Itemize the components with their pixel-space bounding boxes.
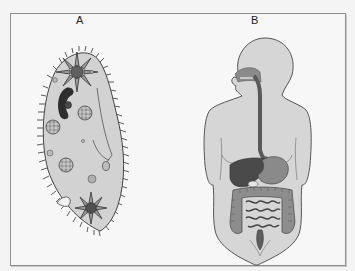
gallbladder [248,181,258,187]
human-body [204,38,311,265]
food-vacuole [78,106,92,120]
paramecium [37,46,129,236]
food-vacuole [59,158,73,172]
food-vacuole [46,120,60,134]
stomach [258,157,288,184]
diagram-illustrations [0,0,355,271]
anal-pore [57,197,70,206]
micronucleus [65,102,72,109]
forming-food-vacuole [103,162,110,171]
